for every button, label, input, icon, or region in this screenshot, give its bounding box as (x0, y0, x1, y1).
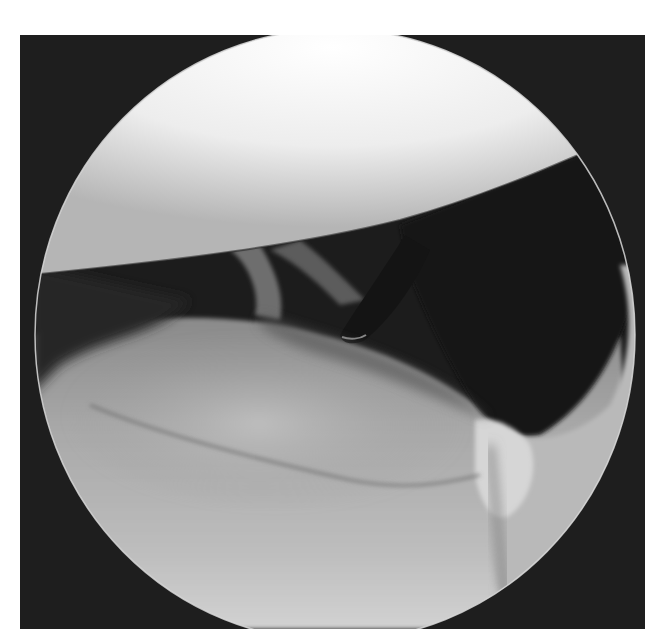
image-frame (20, 35, 645, 629)
arthroscopic-view (20, 35, 645, 629)
